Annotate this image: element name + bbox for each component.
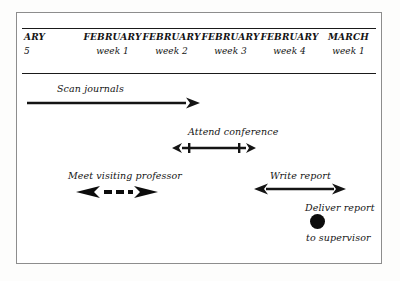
axis-column-0-month: ARY: [24, 32, 83, 43]
task-label-attend-conference: Attend conference: [188, 126, 278, 137]
time-axis-header: ARY 5 FEBRUARY week 1 FEBRUARY week 2 FE…: [22, 32, 378, 72]
task-bar-write-report: [254, 182, 346, 196]
axis-column-3-week: week 3: [201, 46, 260, 57]
axis-column-1-week: week 1: [83, 46, 142, 57]
axis-column-4-month: FEBRUARY: [260, 32, 319, 43]
axis-column-5-week: week 1: [319, 46, 378, 57]
task-bar-scan-journals: [26, 96, 201, 110]
milestone-dot-icon: [310, 214, 325, 229]
axis-column-5: MARCH week 1: [319, 32, 378, 72]
axis-column-2: FEBRUARY week 2: [142, 32, 201, 72]
axis-column-1-month: FEBRUARY: [83, 32, 142, 43]
axis-column-4: FEBRUARY week 4: [260, 32, 319, 72]
task-label-deliver-report-line-2: to supervisor: [306, 232, 371, 243]
header-rule-top: [22, 28, 376, 29]
header-rule-bottom: [22, 73, 376, 74]
axis-column-0: ARY 5: [22, 32, 83, 72]
task-label-meet-visiting-professor: Meet visiting professor: [68, 170, 182, 181]
axis-column-5-month: MARCH: [319, 32, 378, 43]
axis-column-0-week: 5: [24, 46, 83, 57]
task-bar-attend-conference: [172, 141, 256, 155]
axis-column-3: FEBRUARY week 3: [201, 32, 260, 72]
axis-column-2-week: week 2: [142, 46, 201, 57]
task-label-write-report: Write report: [270, 170, 331, 181]
axis-column-1: FEBRUARY week 1: [83, 32, 142, 72]
axis-column-4-week: week 4: [260, 46, 319, 57]
task-bar-meet-visiting-professor: [74, 184, 160, 200]
axis-column-3-month: FEBRUARY: [201, 32, 260, 43]
gantt-chart-image: ARY 5 FEBRUARY week 1 FEBRUARY week 2 FE…: [0, 0, 400, 281]
axis-column-2-month: FEBRUARY: [142, 32, 201, 43]
task-label-scan-journals: Scan journals: [57, 83, 124, 94]
task-label-deliver-report-line-1: Deliver report: [305, 202, 375, 213]
